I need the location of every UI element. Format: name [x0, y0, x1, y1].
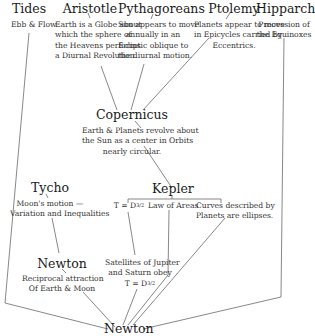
desc-line: Reciprocal attraction: [22, 274, 102, 284]
desc-line: annually in an: [118, 30, 188, 40]
desc-line: Satellites of Jupiter: [105, 258, 175, 268]
desc-line: nearly circular.: [82, 147, 182, 157]
desc-line: the Heavens performs: [55, 41, 125, 51]
node-satellites: Satellites of Jupiter and Saturn obey T …: [105, 258, 175, 289]
node-desc: Moon's motion — Variation and Inequaliti…: [10, 199, 90, 220]
node-desc: Reciprocal attraction Of Earth & Moon: [22, 274, 102, 295]
formula-base: T = D: [114, 201, 136, 210]
formula-base: T = D: [125, 279, 147, 288]
formula-exponent: 3/2: [136, 202, 144, 208]
node-copernicus: Copernicus Earth & Planets revolve about…: [82, 107, 182, 157]
desc-line: Variation and Inequalities: [10, 209, 90, 219]
kepler-law-areas: Law of Areas: [148, 201, 192, 211]
node-aristotle: Aristotle Earth is a Globe about which t…: [55, 1, 125, 61]
node-desc: Precession of the Equinoxes: [256, 20, 312, 41]
desc-line: a Diurnal Revolution.: [55, 51, 125, 61]
node-title: Newton: [104, 321, 148, 336]
node-title: Copernicus: [82, 107, 182, 122]
kepler-law-ellipses: Curves described by Planets are ellipses…: [196, 201, 262, 222]
node-tycho: Tycho Moon's motion — Variation and Ineq…: [10, 180, 90, 220]
desc-line: Earth & Planets revolve about: [82, 126, 182, 136]
node-pythagoreans: Pythagoreans Sun appears to move annuall…: [118, 1, 188, 61]
desc-line: Precession of: [256, 20, 312, 30]
node-title: Kepler: [152, 181, 192, 196]
desc-line: Eccentrics.: [194, 41, 274, 51]
desc-line: Moon's motion —: [10, 199, 90, 209]
node-desc: Sun appears to move annually in an Eclip…: [118, 20, 188, 61]
node-desc: Ebb & Flow: [11, 20, 47, 30]
node-title: Hipparchus: [256, 1, 312, 16]
kepler-law-harmonic: T = D3/2: [112, 201, 146, 211]
desc-line: and Saturn obey: [105, 268, 175, 278]
desc-line: Of Earth & Moon: [22, 284, 102, 294]
node-newton-moon: Newton Reciprocal attraction Of Earth & …: [22, 256, 102, 295]
edge-aristotle-copernicus: [101, 66, 117, 110]
node-tides: Tides Ebb & Flow: [11, 1, 47, 30]
desc-line: Earth is a Globe about: [55, 20, 125, 30]
desc-line: the Equinoxes: [256, 30, 312, 40]
formula-exponent: 3/2: [147, 280, 155, 286]
edge-kepler-harmonic-satellites: [128, 212, 135, 255]
formula: T = D3/2: [105, 279, 175, 289]
desc-line: the Sun as a center in Orbits: [82, 136, 182, 146]
desc-line: Sun appears to move: [118, 20, 188, 30]
node-title: Aristotle: [55, 1, 125, 16]
desc-line: Curves described by: [196, 201, 262, 211]
desc-line: Planets are ellipses.: [196, 211, 262, 221]
edge-satellites-newton: [123, 289, 137, 325]
desc-line: Ecliptic oblique to: [118, 41, 188, 51]
law-text: Law of Areas: [148, 201, 198, 210]
node-title: Newton: [22, 256, 102, 271]
node-title: Tides: [11, 1, 47, 16]
edge-tycho-newton-moon: [52, 218, 59, 253]
node-desc: Earth is a Globe about which the sphere …: [55, 20, 125, 61]
node-title: Pythagoreans: [118, 1, 188, 16]
node-kepler: Kepler: [152, 181, 192, 196]
desc-line: the diurnal motion.: [118, 51, 188, 61]
desc-line: which the sphere of: [55, 30, 125, 40]
edge-pythagoreans-copernicus: [131, 64, 144, 110]
node-newton-final: Newton: [104, 321, 148, 336]
node-title: Tycho: [10, 180, 90, 195]
node-hipparchus: Hipparchus Precession of the Equinoxes: [256, 1, 312, 41]
node-desc: Earth & Planets revolve about the Sun as…: [82, 126, 182, 157]
